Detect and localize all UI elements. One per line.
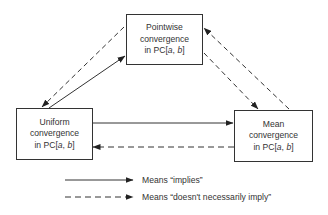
node-pointwise-convergence: Pointwise convergence in PC[a, b] <box>126 14 203 65</box>
node-uniform-convergence: Uniform convergence in PC[a, b] <box>16 108 93 160</box>
node-mean-line3: in PC[a, b] <box>253 142 293 154</box>
legend-implies-label: Means “implies” <box>142 175 203 185</box>
node-pointwise-line2: convergence <box>140 34 189 46</box>
arrow-pointwise-to-uniform-dashed <box>42 27 124 107</box>
arrow-pointwise-to-mean-dashed <box>204 53 258 109</box>
node-uniform-line1: Uniform <box>39 117 69 129</box>
node-mean-line2: convergence <box>249 130 298 142</box>
node-pointwise-line1: Pointwise <box>146 22 183 34</box>
legend-not-imply-label: Means “doesn't necessarily imply” <box>142 192 271 202</box>
node-uniform-line2: convergence <box>30 128 79 140</box>
node-mean-convergence: Mean convergence in PC[a, b] <box>234 110 313 162</box>
node-pointwise-line3: in PC[a, b] <box>144 45 184 57</box>
node-mean-line1: Mean <box>263 119 285 131</box>
node-uniform-line3: in PC[a, b] <box>34 140 74 152</box>
arrow-uniform-to-pointwise <box>49 56 125 108</box>
